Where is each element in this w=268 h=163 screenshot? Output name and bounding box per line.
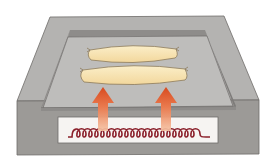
sausage-top <box>87 46 179 63</box>
grill-diagram <box>0 0 268 163</box>
sausage-bottom <box>80 66 188 85</box>
